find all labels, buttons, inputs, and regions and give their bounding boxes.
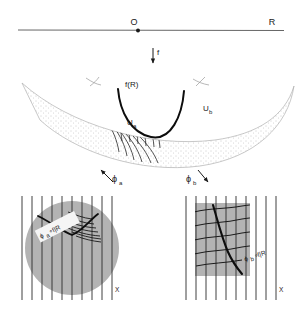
phi-a-label: ϕ <box>112 174 117 184</box>
phi-b-label-sub: b <box>193 180 197 186</box>
real-line <box>18 30 284 31</box>
ua-label-sub: a <box>133 123 137 129</box>
ub-label-sub: b <box>209 109 213 115</box>
domain-line-group <box>18 29 284 33</box>
rim-crease-right <box>193 79 209 85</box>
phi-b-arrow-group <box>198 170 208 182</box>
right-chart-group: ϕ b ∘f|R <box>186 196 276 300</box>
phi-a-label-group: ϕ a <box>112 174 123 186</box>
phi-a-label-sub: a <box>119 180 123 186</box>
right-chart-curve-label-rest: ∘f|R <box>253 249 267 260</box>
origin-point <box>136 29 140 33</box>
f-label: f <box>157 48 160 57</box>
ua-label-group: U a <box>127 118 137 129</box>
phi-b-label: ϕ <box>186 174 191 184</box>
fR-label: f(R) <box>125 80 139 89</box>
phi-b-label-group: ϕ b <box>186 174 197 186</box>
fR-curve <box>118 89 184 137</box>
phi-b-arrow <box>198 170 208 182</box>
left-chart-axis-label: X <box>115 286 120 293</box>
topology-figure: O R f <box>0 0 299 331</box>
right-chart-axis-label: X <box>279 286 284 293</box>
origin-label: O <box>130 17 137 27</box>
foliation-ub <box>149 105 198 138</box>
ub-label-group: U b <box>203 104 213 115</box>
surface-lens <box>22 83 294 168</box>
figure-canvas: O R f <box>0 0 299 331</box>
rim-crease-left <box>86 78 101 85</box>
real-line-label: R <box>269 17 276 27</box>
left-chart-group: ϕ a ∘f|R <box>22 196 119 300</box>
surface-group <box>22 77 294 168</box>
